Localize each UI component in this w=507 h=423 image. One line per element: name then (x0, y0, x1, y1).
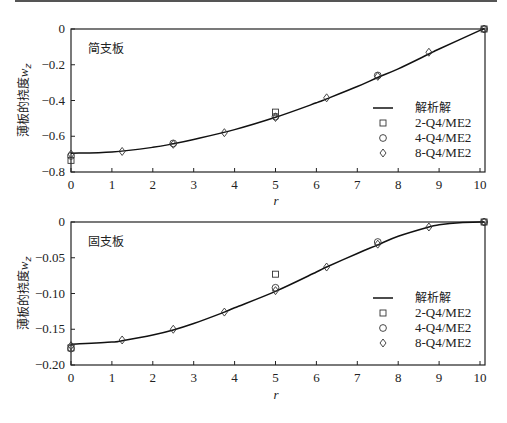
x-tick-label: 6 (313, 370, 320, 385)
diamond-marker (380, 339, 386, 347)
legend-label: 8-Q4/ME2 (415, 145, 471, 160)
legend-label: 2-Q4/ME2 (415, 115, 471, 130)
chart-canvas: 0123456789100−0.2−0.4−0.6−0.8r薄板的挠度wz简支板… (0, 0, 507, 423)
legend-label: 解析解 (415, 291, 451, 305)
y-tick-label: −0.10 (35, 286, 65, 301)
x-tick-label: 4 (231, 370, 238, 385)
y-tick-label: −0.4 (41, 93, 65, 108)
legend-label: 4-Q4/ME2 (415, 320, 471, 335)
square-marker (380, 120, 386, 126)
y-tick-label: 0 (59, 21, 66, 36)
y-tick-label: −0.8 (41, 164, 65, 179)
x-tick-label: 1 (109, 370, 116, 385)
legend-label: 解析解 (415, 101, 451, 115)
square-marker (273, 271, 279, 277)
legend-label: 8-Q4/ME2 (415, 335, 471, 350)
panel-title: 固支板 (88, 235, 124, 249)
x-tick-label: 5 (272, 370, 279, 385)
x-axis-label: r (273, 387, 279, 402)
y-tick-label: −0.20 (35, 357, 65, 372)
x-tick-label: 2 (150, 370, 157, 385)
y-tick-label: −0.2 (41, 57, 65, 72)
y-axis-label: 薄板的挠度wz (16, 64, 33, 138)
y-tick-label: 0 (59, 214, 66, 229)
y-tick-label: −0.15 (35, 321, 65, 336)
x-tick-label: 8 (395, 370, 402, 385)
x-tick-label: 4 (231, 177, 238, 192)
x-tick-label: 6 (313, 177, 320, 192)
panel-title: 简支板 (88, 42, 124, 56)
diamond-marker (380, 149, 386, 157)
x-tick-label: 8 (395, 177, 402, 192)
x-tick-label: 0 (68, 177, 75, 192)
y-tick-label: −0.6 (41, 128, 65, 143)
x-axis-label: r (273, 193, 279, 208)
y-axis-label: 薄板的挠度wz (16, 257, 33, 331)
legend-label: 2-Q4/ME2 (415, 305, 471, 320)
x-tick-label: 10 (474, 177, 487, 192)
x-tick-label: 0 (68, 370, 75, 385)
x-tick-label: 3 (190, 177, 197, 192)
legend: 解析解2-Q4/ME24-Q4/ME28-Q4/ME2 (373, 291, 471, 350)
legend: 解析解2-Q4/ME24-Q4/ME28-Q4/ME2 (373, 101, 471, 160)
x-tick-label: 2 (150, 177, 157, 192)
y-tick-label: −0.05 (35, 250, 65, 265)
chart-clamped: 0123456789100−0.05−0.10−0.15−0.20r薄板的挠度w… (16, 214, 487, 402)
x-tick-label: 7 (354, 370, 361, 385)
legend-label: 4-Q4/ME2 (415, 130, 471, 145)
x-tick-label: 9 (436, 177, 443, 192)
x-tick-label: 10 (474, 370, 487, 385)
square-marker (380, 310, 386, 316)
chart-simply-supported: 0123456789100−0.2−0.4−0.6−0.8r薄板的挠度wz简支板… (16, 21, 487, 208)
x-tick-label: 7 (354, 177, 361, 192)
circle-marker (380, 325, 387, 332)
x-tick-label: 9 (436, 370, 443, 385)
x-tick-label: 5 (272, 177, 279, 192)
x-tick-label: 1 (109, 177, 116, 192)
circle-marker (380, 135, 387, 142)
x-tick-label: 3 (190, 370, 197, 385)
